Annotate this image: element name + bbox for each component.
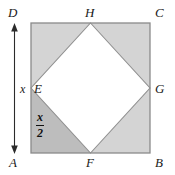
- dimension-label-side-x: x: [20, 83, 25, 95]
- fraction-numerator: x: [36, 111, 44, 124]
- vertex-label-A: A: [9, 156, 17, 169]
- diagram-canvas: [0, 0, 175, 175]
- vertex-label-B: B: [155, 156, 163, 169]
- vertex-label-G: G: [155, 82, 164, 95]
- dimension-arrow-head-top: [11, 23, 18, 32]
- dimension-label-half-side: x 2: [36, 111, 44, 139]
- vertex-label-C: C: [155, 6, 164, 19]
- fraction-denominator: 2: [36, 127, 44, 140]
- vertex-label-D: D: [8, 6, 17, 19]
- vertex-label-H: H: [85, 6, 94, 19]
- dimension-arrow-x: [11, 23, 18, 154]
- vertex-label-E: E: [34, 82, 42, 95]
- dimension-arrow-head-bottom: [11, 146, 18, 155]
- geometry-figure: D C A B H G F E x x 2: [0, 0, 175, 175]
- vertex-label-F: F: [86, 156, 94, 169]
